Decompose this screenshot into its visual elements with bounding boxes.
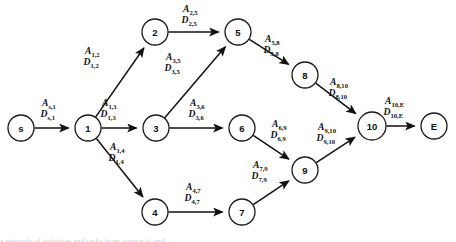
- edge-label-duration-9-10: D9,10: [316, 132, 336, 145]
- node-label-10: 10: [367, 121, 378, 132]
- node-label-9: 9: [302, 165, 307, 176]
- node-label-6: 6: [239, 123, 244, 134]
- node-1[interactable]: 1: [75, 115, 101, 141]
- node-3[interactable]: 3: [143, 115, 169, 141]
- edge-label-duration-2-5: D2,5: [181, 14, 198, 27]
- edge-label-duration-1-2: D1,2: [83, 56, 100, 69]
- node-9[interactable]: 9: [292, 157, 318, 183]
- figure-caption-clipped: a network of activities and tasks from s…: [0, 237, 456, 242]
- node-label-1: 1: [85, 123, 91, 134]
- edge-label-duration-8-10: D8,10: [328, 87, 348, 100]
- node-label-s: s: [18, 123, 23, 134]
- node-label-E: E: [431, 121, 437, 132]
- edge-7-to-9: [253, 181, 289, 205]
- edge-label-duration-1-3: D1,3: [100, 108, 117, 121]
- node-8[interactable]: 8: [292, 62, 318, 88]
- edge-label-duration-s-1: Ds,1: [40, 108, 55, 121]
- node-label-4: 4: [152, 207, 158, 218]
- node-6[interactable]: 6: [229, 115, 255, 141]
- node-5[interactable]: 5: [225, 19, 251, 45]
- edge-label-duration-3-5: D3,5: [164, 62, 181, 75]
- node-label-3: 3: [153, 123, 158, 134]
- edge-label-duration-4-7: D4,7: [184, 192, 201, 205]
- activity-network-diagram: s12345678910E As,1Ds,1A1,2D1,2A1,3D1,3A1…: [0, 0, 456, 242]
- node-label-2: 2: [152, 27, 157, 38]
- graph-canvas: s12345678910E As,1Ds,1A1,2D1,2A1,3D1,3A1…: [0, 0, 456, 242]
- node-label-7: 7: [239, 207, 244, 218]
- node-7[interactable]: 7: [229, 199, 255, 225]
- edge-label-duration-1-4: D1,4: [108, 152, 125, 165]
- node-label-5: 5: [235, 27, 241, 38]
- edge-label-duration-6-9: D6,9: [270, 129, 287, 142]
- nodes-layer: s12345678910E: [8, 19, 447, 225]
- node-s[interactable]: s: [8, 115, 34, 141]
- node-label-8: 8: [302, 70, 307, 81]
- edge-label-duration-10-E: D10,E: [383, 106, 404, 119]
- node-10[interactable]: 10: [358, 112, 386, 140]
- edge-label-duration-7-9: D7,9: [251, 170, 268, 183]
- node-2[interactable]: 2: [142, 19, 168, 45]
- edge-labels-layer: As,1Ds,1A1,2D1,2A1,3D1,3A1,4D1,4A2,5D2,5…: [40, 3, 405, 205]
- edge-label-duration-5-8: D5,8: [263, 44, 280, 57]
- node-4[interactable]: 4: [142, 199, 168, 225]
- edge-label-duration-3-6: D3,6: [188, 108, 205, 121]
- node-E[interactable]: E: [421, 113, 447, 139]
